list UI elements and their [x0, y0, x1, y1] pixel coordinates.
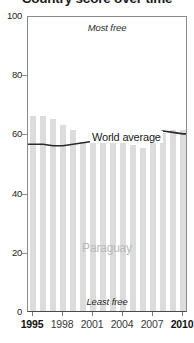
y-tick-label-20: 20: [0, 247, 22, 258]
country-watermark-label: Paraguay: [28, 241, 186, 255]
country-score-chart: Country score over time 100806040200 Mos…: [0, 0, 194, 343]
chart-title: Country score over time: [0, 0, 194, 6]
x-tick-mark-2001: [92, 312, 93, 316]
x-tick-mark-2007: [152, 312, 153, 316]
most-free-annotation: Most free: [28, 22, 186, 33]
x-tick-label-2010: 2010: [162, 318, 194, 330]
y-tick-label-60: 60: [0, 128, 22, 139]
y-tick-label-100: 100: [0, 10, 22, 21]
x-tick-mark-2010: [182, 312, 183, 316]
y-tick-label-40: 40: [0, 188, 22, 199]
x-tick-mark-1995: [32, 312, 33, 316]
x-tick-mark-2004: [122, 312, 123, 316]
x-tick-mark-1998: [62, 312, 63, 316]
y-tick-label-80: 80: [0, 69, 22, 80]
world-average-label: World average: [90, 131, 163, 143]
world-average-line: [28, 17, 187, 312]
plot-area: Most free Least free Paraguay World aver…: [27, 16, 187, 312]
least-free-annotation: Least free: [28, 296, 186, 307]
y-tick-label-0: 0: [0, 306, 22, 317]
